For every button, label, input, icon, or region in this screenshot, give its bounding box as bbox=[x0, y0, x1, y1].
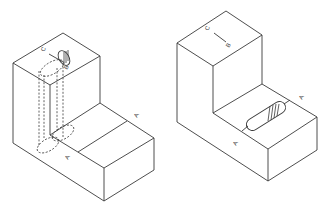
left-figure: C B A A bbox=[13, 33, 154, 201]
left-label-c: C bbox=[40, 45, 48, 52]
left-step-back-edge bbox=[50, 103, 154, 138]
right-label-c: C bbox=[204, 24, 212, 31]
left-label-a-front: A bbox=[64, 154, 71, 160]
left-label-a-right: A bbox=[133, 112, 140, 118]
right-label-a-right: A bbox=[298, 94, 305, 100]
left-step-front-left-edge bbox=[50, 135, 104, 168]
right-label-b: B bbox=[225, 42, 232, 48]
left-hole-cut-line bbox=[49, 54, 63, 62]
right-step-right-edge bbox=[268, 117, 317, 149]
left-bottom-edges bbox=[13, 138, 154, 201]
right-step-front-left-edge bbox=[213, 113, 268, 149]
right-tall-top-face bbox=[177, 11, 262, 66]
left-label-b: B bbox=[63, 64, 70, 70]
right-top-section-line bbox=[214, 33, 226, 42]
left-section-line bbox=[78, 121, 127, 152]
right-step-section-line-1 bbox=[284, 100, 290, 104]
right-figure: C B A A bbox=[177, 11, 317, 181]
left-step-right-edge bbox=[104, 138, 154, 168]
right-label-a-front: A bbox=[232, 140, 239, 146]
right-slot bbox=[244, 99, 288, 132]
left-tall-top-face bbox=[13, 33, 100, 85]
drawing-canvas: C B A A C B A A bbox=[0, 0, 325, 212]
left-hole-hatch bbox=[64, 50, 68, 64]
